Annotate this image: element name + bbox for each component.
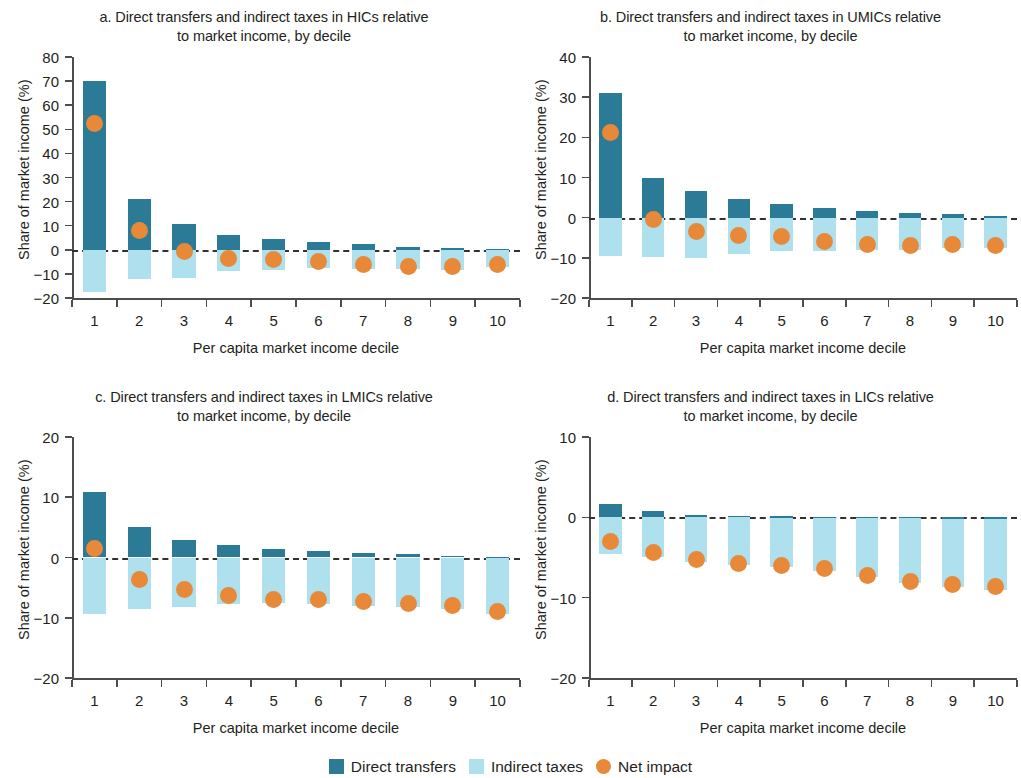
bar-direct-transfers-c-10 (486, 557, 509, 559)
y-axis-title-a: Share of market income (%) (16, 79, 32, 260)
x-tick-d-0 (588, 680, 590, 687)
x-tick-label-a-6: 7 (359, 312, 367, 329)
x-tick-label-a-0: 1 (90, 312, 98, 329)
bar-direct-transfers-a-7 (352, 244, 375, 249)
x-tick-label-a-3: 4 (225, 312, 233, 329)
x-tick-label-a-1: 2 (135, 312, 143, 329)
net-impact-dot-d-3 (688, 551, 705, 568)
net-impact-dot-c-7 (355, 593, 372, 610)
y-tick-label-b-0: 40 (532, 49, 576, 66)
y-tick-c-0 (65, 436, 72, 438)
bar-direct-transfers-c-8 (396, 554, 419, 557)
bar-direct-transfers-d-8 (899, 517, 921, 519)
bar-indirect-taxes-a-1 (83, 250, 106, 292)
x-tick-label-b-7: 8 (906, 312, 914, 329)
y-tick-a-1 (65, 80, 72, 82)
bar-direct-transfers-c-7 (352, 553, 375, 558)
x-tick-label-a-4: 5 (269, 312, 277, 329)
y-tick-c-1 (65, 496, 72, 498)
net-impact-dot-a-10 (489, 256, 506, 273)
x-tick-label-a-7: 8 (404, 312, 412, 329)
net-impact-dot-d-5 (773, 557, 790, 574)
bar-direct-transfers-b-4 (728, 199, 750, 218)
bar-direct-transfers-c-3 (172, 540, 195, 557)
x-tick-a-7 (385, 300, 387, 307)
net-impact-dot-c-8 (400, 595, 417, 612)
x-tick-label-c-9: 10 (489, 692, 506, 709)
x-tick-label-b-6: 7 (863, 312, 871, 329)
bar-direct-transfers-c-4 (217, 545, 240, 557)
x-tick-a-3 (206, 300, 208, 307)
x-tick-d-5 (802, 680, 804, 687)
bar-direct-transfers-a-9 (441, 248, 464, 250)
bar-direct-transfers-d-4 (728, 516, 750, 518)
x-tick-d-10 (1016, 680, 1018, 687)
y-tick-a-3 (65, 129, 72, 131)
y-tick-d-1 (582, 517, 589, 519)
x-tick-label-d-9: 10 (987, 692, 1004, 709)
bar-direct-transfers-a-10 (486, 249, 509, 251)
x-tick-label-a-9: 10 (489, 312, 506, 329)
bar-direct-transfers-b-9 (942, 214, 964, 218)
x-tick-b-10 (1016, 300, 1018, 307)
net-impact-dot-c-5 (265, 591, 282, 608)
legend-square-icon-0 (329, 759, 344, 774)
net-impact-dot-d-9 (944, 576, 961, 593)
x-tick-c-5 (295, 680, 297, 687)
x-tick-label-c-7: 8 (404, 692, 412, 709)
legend-label-0: Direct transfers (351, 759, 456, 775)
y-tick-label-b-6: −20 (532, 290, 576, 307)
net-impact-dot-b-10 (987, 237, 1004, 254)
net-impact-dot-d-7 (859, 567, 876, 584)
bar-direct-transfers-b-6 (813, 208, 835, 218)
x-tick-a-5 (295, 300, 297, 307)
legend-square-icon-1 (469, 759, 484, 774)
y-axis-title-d: Share of market income (%) (533, 459, 549, 640)
legend-circle-icon-2 (596, 759, 611, 774)
x-tick-label-a-8: 9 (449, 312, 457, 329)
net-impact-dot-d-4 (730, 555, 747, 572)
x-tick-b-4 (759, 300, 761, 307)
net-impact-dot-c-10 (489, 603, 506, 620)
legend-label-2: Net impact (618, 759, 692, 775)
net-impact-dot-c-2 (131, 571, 148, 588)
x-tick-b-8 (931, 300, 933, 307)
x-tick-b-2 (674, 300, 676, 307)
y-tick-b-5 (582, 257, 589, 259)
net-impact-dot-b-8 (902, 237, 919, 254)
net-impact-dot-b-2 (645, 211, 662, 228)
x-tick-b-1 (631, 300, 633, 307)
x-tick-label-c-0: 1 (90, 692, 98, 709)
x-axis-title-a: Per capita market income decile (72, 340, 520, 356)
y-tick-label-a-0: 80 (15, 49, 59, 66)
bar-direct-transfers-d-7 (856, 517, 878, 519)
bar-direct-transfers-d-5 (770, 516, 792, 518)
x-tick-label-c-5: 6 (314, 692, 322, 709)
x-tick-c-0 (71, 680, 73, 687)
y-tick-a-5 (65, 177, 72, 179)
x-tick-b-7 (888, 300, 890, 307)
net-impact-dot-a-8 (400, 258, 417, 275)
y-tick-c-4 (65, 677, 72, 679)
x-tick-d-4 (759, 680, 761, 687)
x-tick-label-c-4: 5 (269, 692, 277, 709)
net-impact-dot-c-3 (176, 581, 193, 598)
x-tick-a-4 (250, 300, 252, 307)
x-tick-d-3 (717, 680, 719, 687)
y-tick-d-3 (582, 677, 589, 679)
bar-direct-transfers-d-1 (599, 504, 621, 518)
y-axis-a (72, 57, 74, 298)
figure-root: a. Direct transfers and indirect taxes i… (0, 0, 1021, 778)
x-tick-a-8 (430, 300, 432, 307)
plot-area-a: 80706050403020100−10−2012345678910 (72, 57, 520, 298)
y-tick-b-6 (582, 297, 589, 299)
y-tick-a-9 (65, 273, 72, 275)
y-tick-label-c-4: −20 (15, 670, 59, 687)
y-tick-a-2 (65, 104, 72, 106)
y-tick-label-c-0: 20 (15, 429, 59, 446)
y-tick-a-0 (65, 56, 72, 58)
x-tick-b-3 (717, 300, 719, 307)
bar-direct-transfers-a-8 (396, 247, 419, 250)
net-impact-dot-d-8 (902, 573, 919, 590)
x-tick-label-b-2: 3 (692, 312, 700, 329)
